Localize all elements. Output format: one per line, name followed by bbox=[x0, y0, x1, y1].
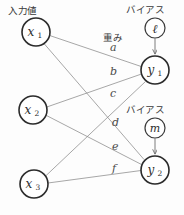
node-label-y2-base: y bbox=[147, 163, 155, 177]
network-graph-svg: x 1 x 2 x 3 ℓ m y 1 y 2 bbox=[0, 0, 184, 215]
node-label-x3-base: x bbox=[26, 177, 33, 191]
node-label-y1-base: y bbox=[147, 63, 155, 77]
node-circle-y1 bbox=[141, 56, 169, 84]
weight-label-a: a bbox=[110, 41, 117, 54]
weight-label-f: f bbox=[111, 162, 118, 175]
node-circle-x2 bbox=[19, 96, 47, 124]
node-circle-x1 bbox=[22, 18, 50, 46]
node-label-x1-sub: 1 bbox=[38, 31, 43, 40]
neural-network-diagram: 入力値 重み バイアス バイアス x 1 x bbox=[0, 0, 184, 215]
connection-lines bbox=[44, 36, 146, 184]
node-label-x2-sub: 2 bbox=[35, 109, 40, 118]
edge-x3-y2 bbox=[48, 171, 141, 184]
node-label-x3-sub: 3 bbox=[36, 183, 41, 192]
input-node-x1[interactable]: x 1 bbox=[22, 18, 50, 46]
edge-x1-y2 bbox=[44, 44, 144, 160]
input-node-x2[interactable]: x 2 bbox=[19, 96, 47, 124]
output-node-y1[interactable]: y 1 bbox=[141, 56, 169, 84]
node-label-m: m bbox=[150, 122, 160, 135]
bias-node-m[interactable]: m bbox=[145, 118, 165, 138]
node-circle-y2 bbox=[141, 156, 169, 184]
node-label-x2-base: x bbox=[25, 103, 32, 117]
bias-node-l[interactable]: ℓ bbox=[145, 18, 165, 38]
weight-label-c: c bbox=[110, 87, 116, 100]
node-circle-x3 bbox=[20, 170, 48, 198]
weight-label-d: d bbox=[112, 116, 119, 129]
node-label-x1-base: x bbox=[28, 25, 35, 39]
output-node-y2[interactable]: y 2 bbox=[141, 156, 169, 184]
node-label-y2-sub: 2 bbox=[158, 169, 163, 178]
input-node-x3[interactable]: x 3 bbox=[20, 170, 48, 198]
edge-x1-y1 bbox=[50, 36, 142, 67]
edge-x3-y1 bbox=[46, 82, 146, 177]
node-label-y1-sub: 1 bbox=[158, 69, 163, 78]
weight-label-e: e bbox=[112, 140, 119, 153]
node-label-l: ℓ bbox=[153, 22, 158, 36]
weight-label-b: b bbox=[110, 65, 117, 78]
